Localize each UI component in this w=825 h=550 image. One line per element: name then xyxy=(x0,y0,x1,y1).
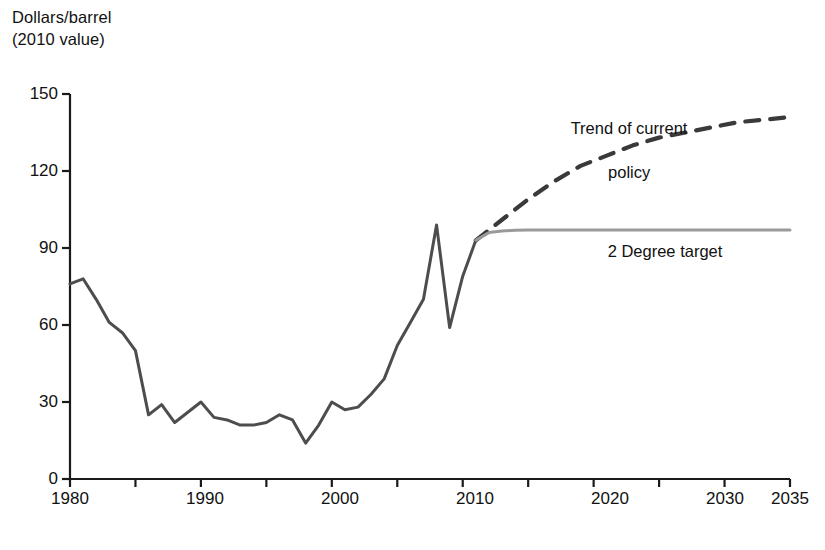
y-tick-label-150: 150 xyxy=(14,84,58,104)
annotation-two-degree-target: 2 Degree target xyxy=(565,240,765,262)
x-tick-label-1990: 1990 xyxy=(170,489,240,509)
x-tick-label-1980: 1980 xyxy=(35,489,105,509)
y-tick-label-60: 60 xyxy=(14,315,58,335)
annotation-trend-line2: policy xyxy=(608,163,650,181)
series-line-2 xyxy=(476,230,790,240)
annotation-trend-line1: Trend of current xyxy=(571,119,688,137)
y-axis-ticks xyxy=(62,94,70,479)
y-tick-label-0: 0 xyxy=(14,469,58,489)
x-tick-label-2035: 2035 xyxy=(755,489,825,509)
chart-canvas xyxy=(0,0,825,550)
annotation-trend-of-current-policy: Trend of current policy xyxy=(520,95,720,205)
x-tick-label-2020: 2020 xyxy=(575,489,645,509)
x-tick-label-2010: 2010 xyxy=(440,489,510,509)
x-axis-ticks xyxy=(70,479,790,487)
series-line-0 xyxy=(70,225,476,443)
x-tick-label-2000: 2000 xyxy=(305,489,375,509)
y-tick-label-120: 120 xyxy=(14,161,58,181)
y-tick-label-90: 90 xyxy=(14,238,58,258)
y-tick-label-30: 30 xyxy=(14,392,58,412)
oil-price-projection-chart: Dollars/barrel (2010 value) 0 30 60 90 1… xyxy=(0,0,825,550)
x-tick-label-2030: 2030 xyxy=(690,489,760,509)
